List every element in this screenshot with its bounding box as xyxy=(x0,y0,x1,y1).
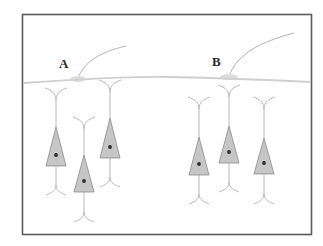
nucleus xyxy=(108,145,112,149)
site-label-b: B xyxy=(212,54,221,69)
nucleus xyxy=(262,161,266,165)
nucleus xyxy=(54,153,58,157)
nucleus xyxy=(227,150,231,154)
nucleus xyxy=(82,179,86,183)
neuron-diagram: A B xyxy=(0,0,323,246)
site-label-a: A xyxy=(59,56,69,71)
nucleus xyxy=(197,162,201,166)
